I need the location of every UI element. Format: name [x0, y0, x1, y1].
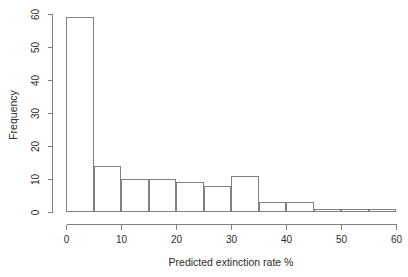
- x-tick-label: 60: [391, 234, 403, 245]
- histogram-bar: [232, 176, 259, 211]
- x-tick-label: 30: [226, 234, 238, 245]
- histogram-bar: [287, 203, 314, 212]
- histogram-bar: [94, 166, 121, 211]
- histogram-bar: [177, 183, 204, 212]
- histogram-bar: [204, 186, 231, 211]
- y-tick-label: 40: [30, 75, 41, 87]
- histogram-plot: 0102030405060 0102030405060 Predicted ex…: [0, 0, 408, 277]
- y-tick-label: 20: [30, 141, 41, 153]
- histogram-bar: [369, 209, 396, 211]
- histogram-bar: [67, 18, 94, 212]
- x-tick-label: 20: [171, 234, 183, 245]
- y-tick-label: 10: [30, 174, 41, 186]
- histogram-bar: [342, 209, 369, 211]
- bars-group: [67, 18, 396, 212]
- x-axis: 0102030405060: [64, 225, 403, 246]
- y-tick-label: 50: [30, 42, 41, 54]
- y-axis: 0102030405060: [30, 9, 53, 216]
- histogram-canvas: 0102030405060 0102030405060 Predicted ex…: [0, 0, 408, 277]
- x-tick-label: 10: [116, 234, 128, 245]
- histogram-bar: [259, 203, 286, 212]
- x-tick-label: 50: [336, 234, 348, 245]
- histogram-bar: [122, 180, 149, 212]
- y-axis-title: Frequency: [7, 89, 19, 139]
- y-tick-label: 60: [30, 9, 41, 21]
- histogram-bar: [149, 180, 176, 212]
- x-tick-label: 0: [64, 234, 70, 245]
- histogram-bar: [314, 209, 341, 211]
- y-tick-label: 30: [30, 108, 41, 120]
- y-tick-label: 0: [30, 209, 41, 215]
- x-tick-label: 40: [281, 234, 293, 245]
- x-axis-title: Predicted extinction rate %: [169, 256, 294, 268]
